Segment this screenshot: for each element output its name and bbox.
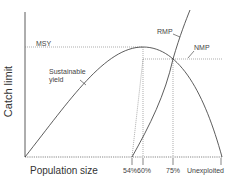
nmp-label: NMP <box>194 44 210 51</box>
tick-unexploited: Unexploited <box>187 167 224 174</box>
tick-54: 54% <box>123 167 137 174</box>
tick-75: 75% <box>166 167 180 174</box>
sustainable-label-2: yield <box>49 76 63 83</box>
diagram-canvas <box>0 0 231 192</box>
nmp-pointer <box>188 51 194 58</box>
rmp-pointer <box>173 34 180 37</box>
x-axis-label: Population size <box>30 166 98 176</box>
msy-label: MSY <box>36 40 51 47</box>
sustainable-yield-curve <box>25 47 222 157</box>
slant-line <box>132 59 143 157</box>
tick-arrows <box>132 158 221 165</box>
y-axis-label: Catch limit <box>3 66 14 117</box>
catch-limit-diagram: Catch limit Population size MSY Sustaina… <box>0 0 231 192</box>
sustainable-label-1: Sustainable <box>49 68 86 75</box>
rmp-label: RMP <box>157 28 173 35</box>
tick-60: 60% <box>137 167 151 174</box>
